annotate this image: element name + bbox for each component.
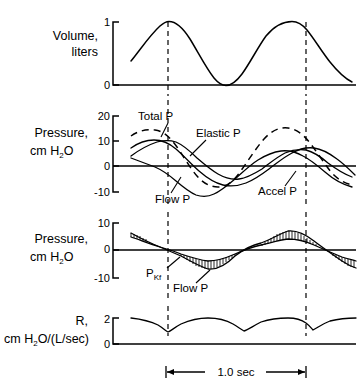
resistance-y-axis: [113, 318, 119, 344]
label-flow-p-panel2: Flow P: [155, 193, 190, 205]
label-accel-p: Accel P: [258, 185, 297, 197]
resistance-tick-2: 2: [104, 313, 110, 325]
pressure1-tick-neg10: -10: [94, 186, 110, 198]
leader-accel-p: [285, 171, 296, 186]
leader-flow-p-panel2: [171, 177, 181, 193]
leader-elastic-p: [190, 140, 206, 156]
time-scale-label: 1.0 sec: [217, 366, 254, 378]
pressure1-axis-label-line2: cm H2O: [30, 144, 74, 160]
panel-resistance: R, cm H2O/(L/sec) 2 0: [4, 306, 356, 350]
figure-respiratory-mechanics: Volume, liters 1 0 Pressure, cm H2O 20 1…: [0, 0, 363, 389]
pressure2-axis-label-line2: cm H2O: [30, 250, 74, 266]
pressure1-tick-0: 0: [104, 160, 110, 172]
resistance-tick-0: 0: [104, 338, 110, 350]
panel-pressure-flow: Pressure, cm H2O 10 0 -10: [30, 212, 356, 300]
volume-axis-label-line1: Volume,: [53, 29, 98, 43]
pressure1-axis-label-line1: Pressure,: [35, 126, 89, 140]
volume-curve: [131, 22, 352, 86]
pressure2-tick-neg10: -10: [94, 272, 110, 284]
label-flow-p-panel3: Flow P: [173, 282, 208, 294]
volume-tick-1: 1: [104, 16, 110, 28]
pressure1-tick-10: 10: [98, 135, 110, 147]
curve-resistance: [131, 318, 356, 332]
panel-volume: Volume, liters 1 0: [53, 16, 356, 96]
curve-flow-p: [131, 151, 352, 197]
label-pk1: PKf: [146, 267, 162, 282]
leader-pk1: [167, 257, 180, 268]
volume-y-axis: [113, 22, 119, 85]
curve-accel-p: [131, 140, 355, 186]
scalebar-arrow-right: [298, 369, 305, 375]
pressure1-tick-20: 20: [98, 110, 110, 122]
resistance-axis-label-line2: cm H2O/(L/sec): [4, 332, 89, 348]
label-elastic-p: Elastic P: [196, 127, 241, 139]
volume-axis-label-line2: liters: [72, 45, 98, 59]
pressure2-tick-0: 0: [104, 243, 110, 255]
panel-pressure-components: Pressure, cm H2O 20 10 0 -10 Total P Ela…: [30, 100, 356, 205]
pressure1-y-axis: [113, 116, 119, 192]
volume-tick-0: 0: [104, 79, 110, 91]
pressure2-tick-10: 10: [98, 217, 110, 229]
resistance-axis-label-line1: R,: [76, 314, 89, 328]
time-scale-bar: 1.0 sec: [166, 366, 306, 378]
pressure2-axis-label-line1: Pressure,: [35, 232, 89, 246]
scalebar-arrow-left: [167, 369, 174, 375]
